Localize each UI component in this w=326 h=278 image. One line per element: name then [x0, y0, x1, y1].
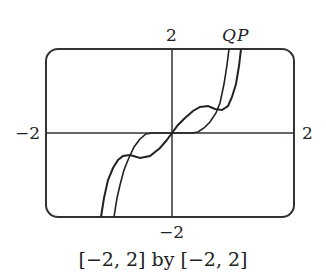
window-caption: [−2, 2] by [−2, 2]	[0, 248, 326, 270]
x-min-label: −2	[15, 125, 40, 142]
y-min-label: −2	[159, 224, 184, 241]
y-max-label: 2	[166, 27, 177, 44]
curve-p-label: P	[237, 27, 248, 44]
x-max-label: 2	[302, 125, 313, 142]
curve-q-label: Q	[222, 27, 236, 44]
